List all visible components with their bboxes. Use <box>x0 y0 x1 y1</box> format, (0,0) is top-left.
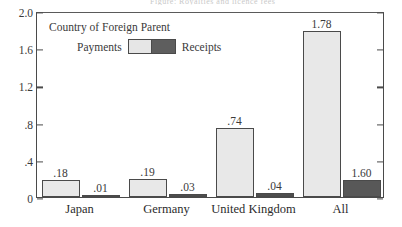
y-tick-p8 <box>377 124 383 125</box>
category-label-united-kingdom: United Kingdom <box>211 202 295 217</box>
y-axis-label-2: 1.2 <box>19 81 33 93</box>
value-label-receipts-japan: .01 <box>93 182 107 194</box>
clipped-caption-text: Figure: Royalties and licence fees <box>150 0 310 5</box>
y-tick-1p6 <box>37 50 43 51</box>
bar-receipts-united-kingdom <box>256 193 294 197</box>
bar-payments-germany <box>129 179 167 197</box>
y-axis-label-3: .8 <box>24 119 33 131</box>
y-axis-label-1: 1.6 <box>19 44 33 56</box>
y-tick-p4 <box>377 161 383 162</box>
y-tick-2p0 <box>37 12 43 13</box>
plot-area: Country of Foreign Parent Payments Recei… <box>36 12 384 198</box>
y-tick-1p2 <box>37 87 43 88</box>
chart-figure: Figure: Royalties and licence fees Count… <box>0 0 402 227</box>
value-label-payments-japan: .18 <box>53 167 67 179</box>
y-axis-label-4: .4 <box>24 156 33 168</box>
y-tick-p8 <box>37 124 43 125</box>
value-label-receipts-united-kingdom: .04 <box>267 180 281 192</box>
bar-payments-united-kingdom <box>216 128 254 197</box>
value-label-payments-united-kingdom: .74 <box>227 115 241 127</box>
y-axis-label-0: 2.0 <box>19 7 33 19</box>
value-label-payments-all: 1.78 <box>311 18 331 30</box>
y-tick-1p6 <box>377 50 383 51</box>
y-tick-2p0 <box>377 12 383 13</box>
value-label-payments-germany: .19 <box>140 166 154 178</box>
value-label-receipts-germany: .03 <box>180 181 194 193</box>
bar-payments-japan <box>42 180 80 197</box>
y-tick-p4 <box>37 161 43 162</box>
bar-payments-all <box>303 31 341 197</box>
category-label-germany: Germany <box>143 202 190 217</box>
y-axis-label-5: 0 <box>27 193 33 205</box>
bar-receipts-japan <box>82 195 120 197</box>
bars-layer: .18.01.19.03.74.041.781.60 <box>37 13 383 197</box>
y-tick-0 <box>37 198 43 199</box>
category-label-all: All <box>333 202 349 217</box>
value-label-receipts-all: 1.60 <box>351 167 371 179</box>
category-label-japan: Japan <box>65 202 93 217</box>
bar-receipts-all <box>343 180 381 197</box>
y-tick-0 <box>377 198 383 199</box>
y-tick-1p2 <box>377 87 383 88</box>
bar-receipts-germany <box>169 194 207 197</box>
